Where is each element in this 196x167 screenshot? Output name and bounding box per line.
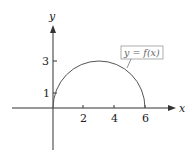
y-axis-label: y <box>48 10 56 23</box>
curve-f <box>53 61 145 108</box>
y-axis-arrow-icon <box>50 25 56 33</box>
x-axis-label: x <box>179 102 186 115</box>
tick-label-x-6: 6 <box>142 112 149 125</box>
tick-label-x-2: 2 <box>80 112 87 125</box>
tick-label-y-1: 1 <box>43 87 50 100</box>
curve-label-pointer <box>127 59 131 68</box>
tick-label-y-3: 3 <box>42 55 49 68</box>
tick-label-x-4: 4 <box>111 112 118 125</box>
x-axis-arrow-icon <box>168 105 176 111</box>
function-graph: 2 4 6 3 1 x y y = f(x) <box>0 0 196 167</box>
curve-label: y = f(x) <box>123 47 160 58</box>
